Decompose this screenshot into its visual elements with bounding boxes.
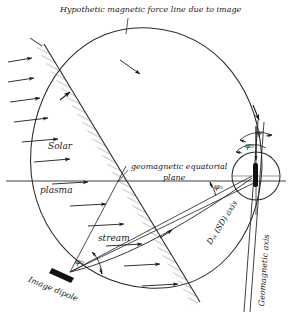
- earth-dipole-bar: [253, 163, 258, 187]
- angle-label-phi-bottom: φ₅: [75, 258, 84, 266]
- angle-label-psi: ψ: [256, 129, 262, 137]
- label-equatorial-plane-line1: geomagnetic equatorial: [131, 163, 227, 171]
- label-plasma: plasma: [40, 186, 73, 195]
- angle-label-phi-mid: φ₅: [214, 183, 223, 191]
- label-solar: Solar: [48, 142, 72, 151]
- hypothetic-force-line: [31, 28, 262, 289]
- label-equatorial-plane-line2: plane: [163, 174, 185, 182]
- figure-title: Hypothetic magnetic force line due to im…: [60, 6, 241, 14]
- label-stream: stream: [98, 234, 130, 243]
- title-leader-line: [126, 18, 128, 34]
- solar-wind-arrows: [8, 58, 178, 286]
- angle-label-phi-top: φ₅: [245, 142, 254, 150]
- diagram-canvas: Hypothetic magnetic force line due to im…: [0, 0, 292, 314]
- image-dipole-bar: [49, 268, 74, 283]
- diagram-svg: [0, 0, 292, 314]
